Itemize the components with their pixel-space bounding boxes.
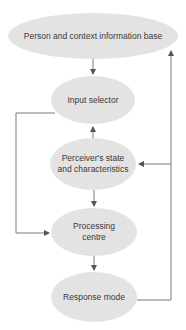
label-processing: Processing centre [67,220,121,244]
edge-response-to-person [137,51,171,300]
label-person-context: Person and context information base [8,28,178,44]
edge-input-to-processing [16,113,55,233]
label-perceiver: Perceiver's state and characteristics [56,147,130,181]
label-response: Response mode [51,289,137,305]
label-input-selector: Input selector [51,92,135,108]
